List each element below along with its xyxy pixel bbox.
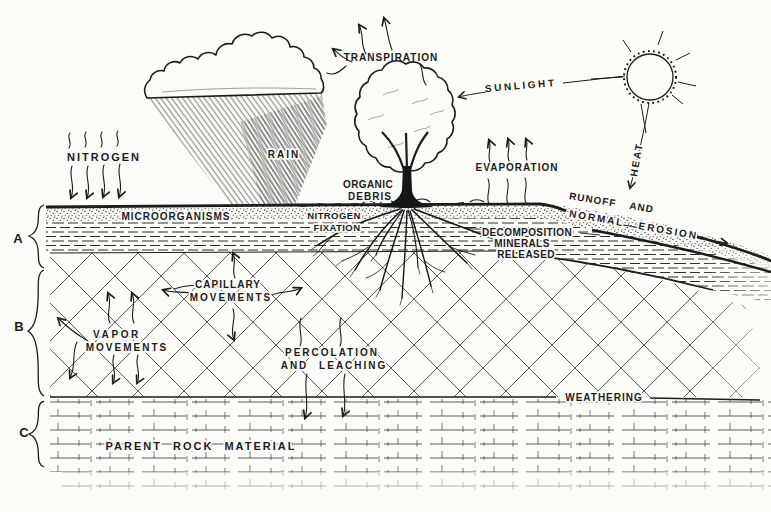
- nitrogen-arrows: [69, 131, 121, 198]
- label-horizon-b: B: [14, 319, 23, 334]
- label-heat: HEAT: [628, 141, 645, 177]
- label-microorganisms: MICROORGANISMS: [122, 211, 231, 222]
- soil-formation-diagram: A B C NITROGEN RAIN TRANSPIRATION SUNLIG…: [0, 0, 771, 512]
- label-sunlight: SUNLIGHT: [484, 77, 557, 94]
- label-percolation-1: PERCOLATION: [285, 347, 379, 358]
- label-horizon-c: C: [19, 425, 29, 440]
- label-organic-debris-1: ORGANIC: [343, 179, 393, 190]
- label-capillary-1: CAPILLARY: [195, 279, 261, 290]
- label-decomposition-3: RELEASED: [497, 249, 555, 260]
- label-horizon-a: A: [13, 231, 23, 246]
- label-vapor-1: VAPOR: [93, 329, 141, 340]
- label-percolation-2: AND LEACHING: [281, 360, 388, 371]
- horizon-braces: [28, 205, 44, 467]
- label-nitrogen-fixation-1: NITROGEN: [307, 210, 360, 221]
- label-vapor-2: MOVEMENTS: [86, 342, 168, 353]
- label-evaporation: EVAPORATION: [476, 162, 559, 173]
- label-weathering: WEATHERING: [565, 392, 643, 403]
- label-decomposition-1: DECOMPOSITION: [482, 227, 572, 238]
- sun-icon: [591, 31, 696, 133]
- tree-crown: [355, 61, 455, 172]
- label-nitrogen: NITROGEN: [67, 151, 141, 163]
- brace-horizon-c: [29, 401, 44, 467]
- brace-horizon-a: [29, 205, 44, 268]
- label-rain: RAIN: [268, 149, 300, 160]
- brace-horizon-b: [28, 270, 44, 396]
- label-capillary-2: MOVEMENTS: [190, 292, 272, 303]
- label-transpiration: TRANSPIRATION: [344, 52, 438, 63]
- label-decomposition-2: MINERALS: [494, 238, 549, 249]
- diagram-canvas: A B C NITROGEN RAIN TRANSPIRATION SUNLIG…: [0, 0, 771, 512]
- cloud-icon: [145, 32, 324, 98]
- label-parent-rock: PARENT ROCK MATERIAL: [106, 440, 297, 452]
- label-nitrogen-fixation-2: FIXATION: [314, 222, 361, 233]
- label-organic-debris-2: DEBRIS: [348, 191, 392, 202]
